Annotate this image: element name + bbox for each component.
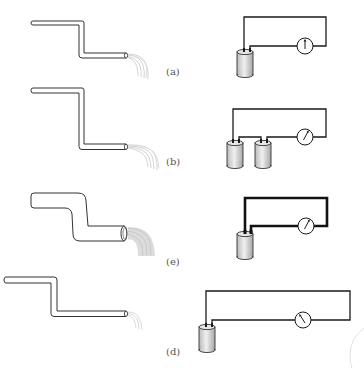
circuit-b [227, 109, 326, 169]
battery-c [237, 230, 253, 260]
panel-label-b: (b) [166, 157, 180, 167]
faint-arc-artifact [350, 328, 364, 368]
meter-c [298, 218, 314, 234]
pipe-c [31, 193, 127, 241]
battery-b2 [255, 139, 271, 169]
meter-a [297, 38, 313, 54]
panel-label-a: (a) [166, 67, 180, 77]
meter-b [297, 129, 313, 145]
pipe-circuit-analogy-diagram [0, 0, 364, 368]
water-spray-b [128, 145, 159, 170]
pipe-d [4, 277, 128, 317]
battery-d [199, 323, 215, 353]
battery-b1 [227, 139, 243, 169]
water-spray-d [128, 312, 142, 330]
pipe-a [31, 21, 128, 58]
panel-d [4, 277, 350, 353]
pipe-b [31, 88, 128, 150]
circuit-a [237, 17, 326, 78]
panel-c [31, 193, 327, 260]
meter-d [295, 312, 311, 328]
circuit-c [237, 198, 327, 260]
water-spray-c [128, 227, 155, 256]
battery-a [237, 48, 253, 78]
panel-label-d: (d) [166, 347, 180, 357]
panel-label-c: (e) [166, 257, 180, 267]
water-spray-a [128, 54, 148, 79]
circuit-d [199, 291, 350, 353]
